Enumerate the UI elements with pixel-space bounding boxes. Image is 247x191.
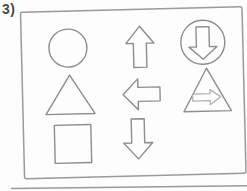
right-arrow-icon — [192, 89, 220, 105]
left-arrow-icon — [123, 78, 161, 110]
circle-outline-icon — [48, 29, 87, 68]
triangle-outline-icon — [45, 74, 95, 114]
next-panel-top-edge — [11, 186, 247, 189]
down-arrow-in-circle-icon — [180, 20, 225, 65]
right-arrow-triangle-outline — [183, 68, 232, 112]
worksheet-item: 3) — [0, 0, 247, 191]
shapes-panel — [0, 0, 247, 191]
square-outline-icon — [54, 125, 91, 164]
up-arrow-icon — [125, 26, 154, 68]
down-arrow-glyph — [188, 26, 217, 59]
down-arrow-icon — [123, 119, 153, 160]
